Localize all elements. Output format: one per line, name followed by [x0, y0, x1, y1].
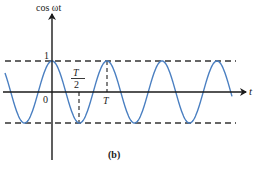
period-label: T [103, 95, 110, 106]
y-axis-label: cos ωt [36, 2, 61, 13]
cosine-diagram: cos ωt t 1 0 T 2 T (b) [0, 0, 255, 172]
origin-label: 0 [43, 94, 48, 105]
half-period-numerator: T [73, 67, 80, 78]
x-axis-label: t [249, 85, 253, 97]
figure-caption: (b) [108, 149, 120, 161]
peak-label: 1 [44, 50, 49, 61]
half-period-denominator: 2 [74, 79, 79, 90]
